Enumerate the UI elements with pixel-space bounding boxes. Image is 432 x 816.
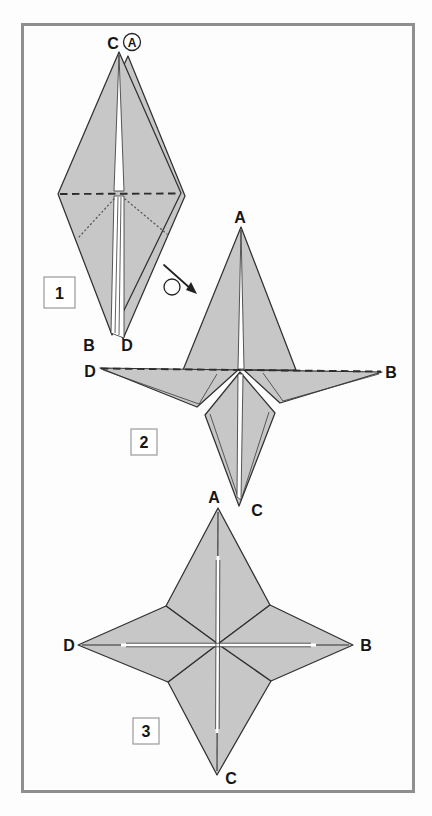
rotate-arrow-icon [164, 265, 197, 295]
rotate-loop [164, 279, 180, 295]
step1-vertex-label-top: C [107, 35, 119, 52]
step3-vertex-label-top: A [208, 489, 220, 506]
step1-vertex-label-top-circled: A [128, 36, 137, 50]
step1-vertex-label-bottom-left: B [83, 337, 95, 354]
diagram-page: C A B D 1 A D B C [0, 0, 432, 816]
step3-vertex-label-bottom: C [225, 770, 237, 787]
step3-vertex-label-right: B [360, 637, 372, 654]
step2-vertex-label-left: D [84, 363, 96, 380]
rotate-arrow-shaft [164, 265, 191, 289]
step-1-figure: C A B D 1 [44, 34, 185, 355]
rotate-arrowhead [186, 282, 197, 294]
step3-number: 3 [142, 723, 151, 740]
step1-number: 1 [55, 285, 64, 302]
diagram-canvas: C A B D 1 A D B C [0, 0, 432, 816]
step3-vertex-label-left: D [63, 637, 75, 654]
step-3-figure: A D B C 3 [63, 489, 372, 787]
step2-vertex-label-bottom: C [251, 502, 263, 519]
step2-vertex-label-top: A [234, 209, 246, 226]
step2-number: 2 [140, 434, 149, 451]
step1-vertex-label-bottom-right: D [121, 337, 133, 354]
step2-vertex-label-right: B [385, 364, 397, 381]
